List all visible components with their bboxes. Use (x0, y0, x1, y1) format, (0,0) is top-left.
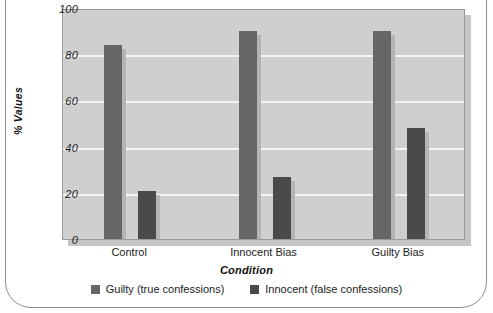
x-axis-tick-label-control: Control (111, 246, 146, 258)
x-axis-tick-label-innocent-bias: Innocent Bias (230, 246, 297, 258)
bar-control-innocent (138, 191, 156, 240)
y-axis-title: % Values (12, 76, 24, 146)
legend-item-innocent: Innocent (false confessions) (250, 283, 402, 295)
bar-control-guilty (104, 45, 122, 239)
bar-fill (273, 177, 291, 239)
bar-fill (104, 45, 122, 239)
y-axis-tick-label: 20 (50, 188, 78, 200)
plot-area (62, 9, 465, 240)
x-axis-tick-label-guilty-bias: Guilty Bias (372, 246, 425, 258)
bar-guilty-bias-guilty (373, 31, 391, 239)
bar-fill (407, 128, 425, 239)
legend-swatch-square-icon (250, 285, 259, 294)
chart-legend: Guilty (true confessions)Innocent (false… (0, 283, 493, 295)
y-axis-tick-label: 40 (50, 142, 78, 154)
chart-page: 020406080100 % Values ControlInnocent Bi… (0, 0, 493, 313)
legend-swatch-square-icon (91, 285, 100, 294)
legend-label: Guilty (true confessions) (106, 283, 225, 295)
y-axis-tick-label: 60 (50, 95, 78, 107)
y-axis-tick-label: 0 (50, 234, 78, 246)
bar-innocent-bias-innocent (273, 177, 291, 239)
y-axis-tick-label: 100 (50, 3, 78, 15)
bar-innocent-bias-guilty (239, 31, 257, 239)
bar-fill (239, 31, 257, 239)
bar-guilty-bias-innocent (407, 128, 425, 239)
legend-label: Innocent (false confessions) (265, 283, 402, 295)
legend-item-guilty: Guilty (true confessions) (91, 283, 225, 295)
bar-fill (138, 191, 156, 240)
bar-fill (373, 31, 391, 239)
x-axis-title: Condition (0, 264, 493, 276)
y-axis-tick-label: 80 (50, 49, 78, 61)
